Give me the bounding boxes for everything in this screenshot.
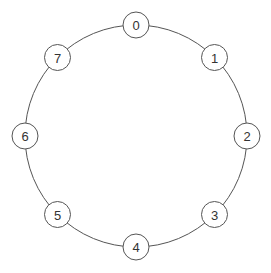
node-label: 5 [54, 208, 61, 223]
node-1: 1 [202, 45, 228, 71]
node-7: 7 [45, 45, 71, 71]
node-label: 4 [132, 240, 139, 255]
node-6: 6 [12, 123, 38, 149]
node-label: 3 [211, 208, 218, 223]
ring-diagram: 01234567 [0, 0, 271, 273]
node-0: 0 [123, 12, 149, 38]
node-label: 6 [21, 129, 28, 144]
node-2: 2 [234, 123, 260, 149]
node-label: 2 [243, 129, 250, 144]
node-3: 3 [202, 202, 228, 228]
nodes-group: 01234567 [12, 12, 260, 260]
node-label: 0 [132, 18, 139, 33]
node-label: 7 [54, 51, 61, 66]
node-4: 4 [123, 234, 149, 260]
node-5: 5 [45, 202, 71, 228]
node-label: 1 [211, 51, 218, 66]
